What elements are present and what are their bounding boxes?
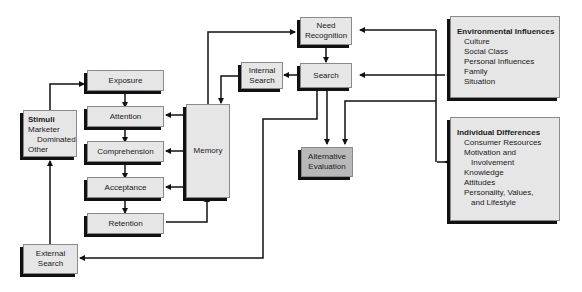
alternative-evaluation-line-2: Evaluation (308, 162, 346, 172)
ind-item: Attitudes (457, 178, 541, 188)
need-recognition-box: Need Recognition (300, 17, 352, 45)
env-item: Social Class (457, 47, 554, 57)
external-search-line-1: External (36, 249, 65, 259)
stimuli-line-1: Marketer (28, 125, 76, 135)
exposure-box: Exposure (87, 70, 164, 91)
acceptance-label: Acceptance (105, 183, 147, 193)
individual-differences-box: Individual Differences Consumer Resource… (450, 117, 560, 221)
internal-search-line-1: Internal (249, 66, 276, 76)
alternative-evaluation-box: Alternative Evaluation (301, 147, 353, 177)
stimuli-box: Stimuli Marketer Dominated Other (23, 110, 77, 157)
need-recognition-line-1: Need (305, 21, 347, 31)
stimuli-line-2: Dominated (28, 135, 76, 145)
comprehension-label: Comprehension (97, 147, 153, 157)
env-item: Situation (457, 77, 554, 87)
stimuli-title: Stimuli (28, 115, 76, 125)
environmental-influences-title: Environmental Influences (457, 27, 554, 37)
search-box: Search (300, 63, 352, 88)
need-recognition-line-2: Recognition (305, 31, 347, 41)
external-search-box: External Search (23, 244, 78, 274)
external-search-line-2: Search (36, 259, 65, 269)
environmental-influences-box: Environmental Influences Culture Social … (450, 16, 560, 98)
alternative-evaluation-line-1: Alternative (308, 152, 346, 162)
internal-search-box: Internal Search (241, 62, 283, 89)
search-label: Search (313, 71, 338, 81)
ind-item: Involvement (457, 158, 541, 168)
internal-search-line-2: Search (249, 76, 276, 86)
env-item: Personal Influences (457, 57, 554, 67)
memory-box: Memory (186, 104, 230, 198)
ind-item: Consumer Resources (457, 138, 541, 148)
ind-item: Knowledge (457, 168, 541, 178)
attention-box: Attention (87, 106, 164, 127)
env-item: Family (457, 67, 554, 77)
stimuli-line-3: Other (28, 145, 76, 155)
ind-item: Personality, Values, (457, 188, 541, 198)
ind-item: Motivation and (457, 148, 541, 158)
individual-differences-title: Individual Differences (457, 128, 541, 138)
retention-label: Retention (108, 219, 142, 229)
memory-label: Memory (194, 146, 223, 156)
attention-label: Attention (110, 112, 142, 122)
comprehension-box: Comprehension (87, 141, 164, 162)
ind-item: and Lifestyle (457, 198, 541, 208)
retention-box: Retention (87, 213, 164, 234)
exposure-label: Exposure (109, 76, 143, 86)
acceptance-box: Acceptance (87, 177, 164, 198)
env-item: Culture (457, 37, 554, 47)
